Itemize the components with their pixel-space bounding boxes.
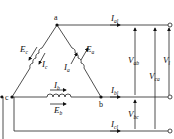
svg-text:Ibl: Ibl: [110, 85, 119, 96]
coil-c-icon: [30, 48, 42, 68]
terminal-b: [168, 95, 172, 99]
terminal-c: [168, 129, 172, 133]
wire-a-c-upper: [42, 25, 57, 48]
svg-text:Ec: Ec: [19, 44, 29, 55]
svg-text:Ial: Ial: [110, 13, 119, 24]
svg-text:Vca: Vca: [149, 71, 160, 82]
terminal-a: [168, 23, 172, 27]
svg-text:Eb: Eb: [53, 105, 63, 116]
svg-text:Ib: Ib: [53, 80, 60, 91]
svg-text:Ea: Ea: [85, 44, 95, 55]
svg-text:Ic: Ic: [41, 59, 48, 70]
svg-text:Vbc: Vbc: [128, 109, 139, 120]
node-a-label: a: [54, 13, 58, 22]
coil-b-icon: [47, 94, 71, 97]
delta-circuit-diagram: a b c Ec Ic Ea Ia Ib Eb Ial Ibl Icl Vab …: [0, 0, 174, 139]
svg-text:Ia: Ia: [63, 62, 70, 73]
node-c-label: c: [5, 93, 9, 102]
svg-text:Vab: Vab: [128, 55, 139, 66]
node-b-label: b: [99, 100, 103, 109]
svg-text:Icl: Icl: [110, 119, 118, 130]
